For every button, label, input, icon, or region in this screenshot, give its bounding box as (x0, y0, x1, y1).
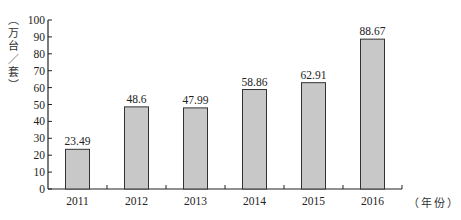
x-axis-unit-label: （年份） (408, 194, 460, 210)
y-tick-label: 80 (34, 48, 46, 60)
bar (184, 108, 208, 189)
y-tick-label: 70 (34, 65, 46, 77)
x-tick-label: 2011 (66, 195, 89, 207)
bar (125, 107, 149, 189)
bar-value-label: 58.86 (242, 76, 268, 88)
x-tick-label: 2013 (184, 195, 207, 207)
bar (302, 83, 326, 189)
y-tick-label: 90 (34, 31, 46, 43)
x-tick-label: 2012 (125, 195, 148, 207)
bar-value-label: 62.91 (301, 69, 327, 81)
bar (66, 149, 90, 189)
y-tick-label: 60 (34, 82, 46, 94)
y-tick-label: 50 (34, 99, 46, 111)
bar-value-label: 48.6 (126, 93, 146, 105)
bar-value-label: 23.49 (65, 135, 91, 147)
bar-chart: 010203040506070809010023.49201148.620124… (0, 0, 461, 220)
bar (361, 39, 385, 189)
y-tick-label: 10 (34, 166, 46, 178)
y-tick-label: 20 (34, 149, 46, 161)
x-tick-label: 2014 (243, 195, 266, 207)
bar-value-label: 88.67 (360, 25, 386, 37)
x-tick-label: 2015 (302, 195, 325, 207)
x-tick-label: 2016 (361, 195, 384, 207)
y-tick-label: 40 (34, 115, 46, 127)
y-tick-label: 30 (34, 132, 46, 144)
y-tick-label: 0 (39, 183, 45, 195)
bar-value-label: 47.99 (183, 94, 209, 106)
y-tick-label: 100 (28, 14, 46, 26)
bar (243, 90, 267, 189)
